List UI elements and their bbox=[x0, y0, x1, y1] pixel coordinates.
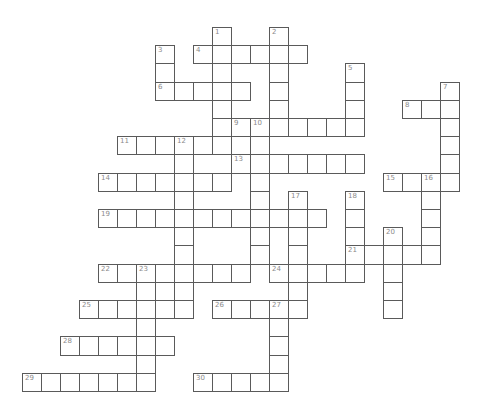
crossword-cell[interactable] bbox=[269, 118, 289, 137]
crossword-cell[interactable]: 10 bbox=[250, 118, 270, 137]
crossword-cell[interactable] bbox=[326, 118, 346, 137]
crossword-cell[interactable] bbox=[288, 264, 308, 283]
crossword-cell[interactable] bbox=[212, 82, 232, 101]
crossword-cell[interactable] bbox=[307, 154, 327, 174]
crossword-cell[interactable] bbox=[440, 136, 460, 155]
crossword-cell[interactable] bbox=[174, 154, 194, 174]
crossword-cell[interactable] bbox=[231, 45, 251, 64]
crossword-cell[interactable] bbox=[364, 245, 384, 265]
crossword-cell[interactable]: 12 bbox=[174, 136, 194, 155]
crossword-cell[interactable] bbox=[421, 245, 441, 265]
crossword-cell[interactable]: 13 bbox=[231, 154, 251, 174]
crossword-cell[interactable] bbox=[250, 45, 270, 64]
crossword-cell[interactable] bbox=[212, 173, 232, 192]
crossword-cell[interactable] bbox=[383, 300, 403, 319]
crossword-cell[interactable] bbox=[136, 136, 156, 155]
crossword-cell[interactable] bbox=[250, 191, 270, 210]
crossword-cell[interactable] bbox=[41, 373, 61, 392]
crossword-cell[interactable] bbox=[288, 209, 308, 228]
crossword-cell[interactable] bbox=[155, 173, 175, 192]
crossword-cell[interactable]: 27 bbox=[269, 300, 289, 319]
crossword-cell[interactable] bbox=[288, 118, 308, 137]
crossword-cell[interactable] bbox=[193, 173, 213, 192]
crossword-cell[interactable] bbox=[174, 173, 194, 192]
crossword-cell[interactable]: 1 bbox=[212, 27, 232, 46]
crossword-cell[interactable] bbox=[345, 100, 365, 119]
crossword-cell[interactable] bbox=[269, 209, 289, 228]
crossword-cell[interactable] bbox=[174, 209, 194, 228]
crossword-cell[interactable] bbox=[136, 300, 156, 319]
crossword-cell[interactable] bbox=[345, 82, 365, 101]
crossword-cell[interactable] bbox=[98, 373, 118, 392]
crossword-cell[interactable] bbox=[174, 300, 194, 319]
crossword-cell[interactable] bbox=[193, 264, 213, 283]
crossword-cell[interactable] bbox=[155, 136, 175, 155]
crossword-cell[interactable] bbox=[440, 100, 460, 119]
crossword-cell[interactable] bbox=[231, 300, 251, 319]
crossword-cell[interactable]: 18 bbox=[345, 191, 365, 210]
crossword-cell[interactable]: 2 bbox=[269, 27, 289, 46]
crossword-cell[interactable] bbox=[250, 300, 270, 319]
crossword-cell[interactable] bbox=[136, 336, 156, 356]
crossword-cell[interactable]: 22 bbox=[98, 264, 118, 283]
crossword-cell[interactable] bbox=[288, 245, 308, 265]
crossword-cell[interactable]: 4 bbox=[193, 45, 213, 64]
crossword-cell[interactable]: 19 bbox=[98, 209, 118, 228]
crossword-cell[interactable] bbox=[193, 209, 213, 228]
crossword-cell[interactable] bbox=[250, 173, 270, 192]
crossword-cell[interactable] bbox=[288, 300, 308, 319]
crossword-cell[interactable]: 20 bbox=[383, 227, 403, 246]
crossword-cell[interactable] bbox=[326, 264, 346, 283]
crossword-cell[interactable] bbox=[212, 264, 232, 283]
crossword-cell[interactable] bbox=[269, 100, 289, 119]
crossword-cell[interactable] bbox=[231, 82, 251, 101]
crossword-cell[interactable]: 30 bbox=[193, 373, 213, 392]
crossword-cell[interactable] bbox=[269, 45, 289, 64]
crossword-cell[interactable] bbox=[288, 154, 308, 174]
crossword-cell[interactable] bbox=[440, 118, 460, 137]
crossword-cell[interactable] bbox=[212, 63, 232, 83]
crossword-cell[interactable] bbox=[250, 227, 270, 246]
crossword-cell[interactable] bbox=[98, 300, 118, 319]
crossword-cell[interactable] bbox=[155, 264, 175, 283]
crossword-cell[interactable] bbox=[117, 300, 137, 319]
crossword-cell[interactable] bbox=[307, 118, 327, 137]
crossword-cell[interactable] bbox=[231, 209, 251, 228]
crossword-cell[interactable]: 16 bbox=[421, 173, 441, 192]
crossword-cell[interactable] bbox=[345, 209, 365, 228]
crossword-cell[interactable]: 29 bbox=[22, 373, 42, 392]
crossword-cell[interactable]: 5 bbox=[345, 63, 365, 83]
crossword-cell[interactable]: 28 bbox=[60, 336, 80, 356]
crossword-cell[interactable] bbox=[155, 209, 175, 228]
crossword-cell[interactable] bbox=[402, 245, 422, 265]
crossword-cell[interactable] bbox=[155, 300, 175, 319]
crossword-cell[interactable] bbox=[269, 63, 289, 83]
crossword-cell[interactable] bbox=[136, 173, 156, 192]
crossword-cell[interactable] bbox=[136, 373, 156, 392]
crossword-cell[interactable] bbox=[345, 118, 365, 137]
crossword-cell[interactable] bbox=[193, 82, 213, 101]
crossword-cell[interactable] bbox=[307, 264, 327, 283]
crossword-cell[interactable] bbox=[212, 209, 232, 228]
crossword-cell[interactable] bbox=[440, 173, 460, 192]
crossword-cell[interactable]: 7 bbox=[440, 82, 460, 101]
crossword-cell[interactable] bbox=[345, 264, 365, 283]
crossword-cell[interactable] bbox=[136, 318, 156, 337]
crossword-cell[interactable] bbox=[307, 209, 327, 228]
crossword-cell[interactable] bbox=[383, 264, 403, 283]
crossword-cell[interactable] bbox=[269, 318, 289, 337]
crossword-cell[interactable] bbox=[212, 100, 232, 119]
crossword-cell[interactable] bbox=[250, 373, 270, 392]
crossword-cell[interactable] bbox=[174, 191, 194, 210]
crossword-cell[interactable] bbox=[269, 154, 289, 174]
crossword-cell[interactable]: 3 bbox=[155, 45, 175, 64]
crossword-cell[interactable] bbox=[326, 154, 346, 174]
crossword-cell[interactable] bbox=[136, 355, 156, 374]
crossword-cell[interactable]: 6 bbox=[155, 82, 175, 101]
crossword-cell[interactable] bbox=[193, 136, 213, 155]
crossword-cell[interactable] bbox=[421, 191, 441, 210]
crossword-cell[interactable] bbox=[421, 209, 441, 228]
crossword-cell[interactable] bbox=[212, 45, 232, 64]
crossword-cell[interactable] bbox=[250, 209, 270, 228]
crossword-cell[interactable] bbox=[117, 336, 137, 356]
